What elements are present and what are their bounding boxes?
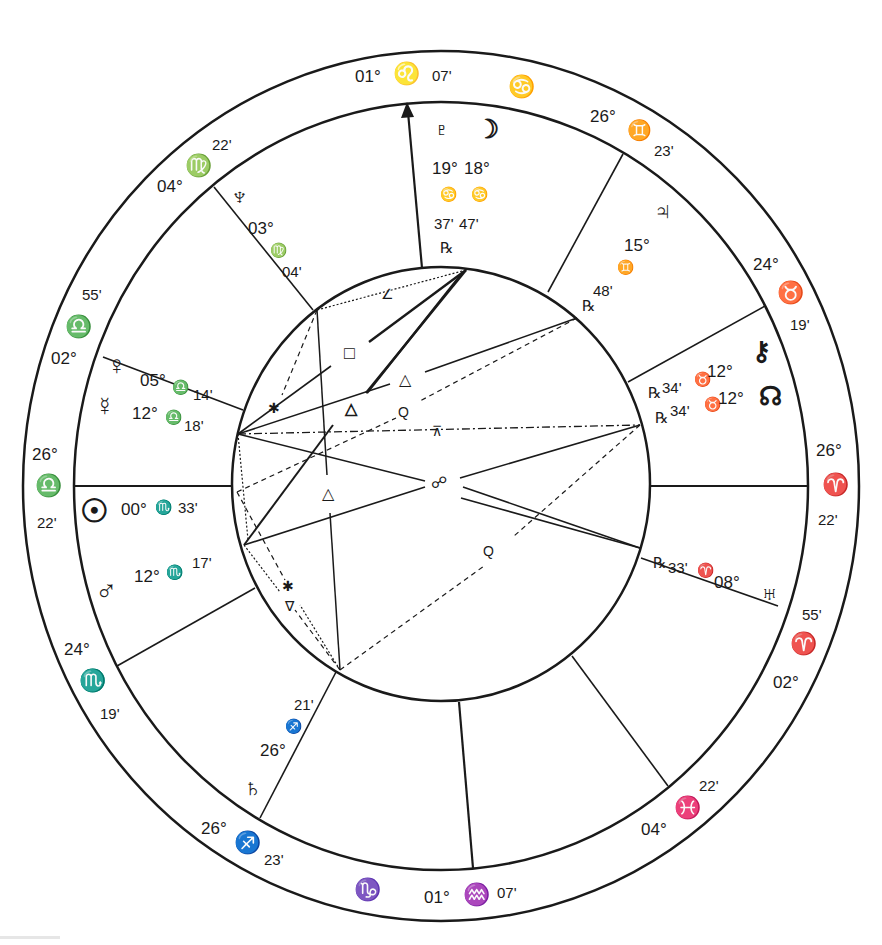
h3r-minutes: 22'	[699, 778, 719, 793]
h2r-minutes: 55'	[802, 607, 822, 622]
moon-sign: ♋	[471, 187, 488, 201]
aspect-opposition-icon: ☍	[431, 475, 447, 491]
neptune-sign: ♍	[270, 243, 287, 257]
h11-minutes: 23'	[654, 143, 674, 158]
h9-sign-virgo: ♍	[185, 155, 212, 177]
node-retrograde: ℞	[655, 410, 668, 425]
h5-minutes: 23'	[264, 852, 284, 867]
h11-degree: 26°	[590, 108, 616, 125]
mars-degree: 12°	[134, 568, 160, 585]
h11-sign-gemini: ♊	[627, 120, 652, 140]
venus-icon: ♀	[107, 352, 127, 378]
pluto-retrograde: ℞	[440, 240, 453, 255]
h12-minutes: 19'	[790, 317, 810, 332]
chiron-degree: 12°	[707, 363, 733, 380]
jupiter-minutes: 48'	[593, 283, 613, 298]
sun-degree: 00°	[121, 501, 147, 518]
h5-sign-sagittarius: ♐	[234, 832, 261, 854]
asc-minutes: 22'	[37, 515, 57, 530]
jupiter-retrograde: ℞	[582, 298, 595, 313]
moon-degree: 18°	[464, 160, 490, 177]
node-degree: 12°	[718, 390, 744, 407]
pluto-degree: 19°	[432, 160, 458, 177]
mars-icon: ♂	[95, 575, 118, 605]
uranus-minutes: 33'	[668, 560, 688, 575]
aspect-semisquare-icon: ∠	[381, 287, 394, 301]
moon-minutes: 47'	[459, 216, 479, 231]
h5-degree: 26°	[201, 820, 227, 837]
cusp-6	[117, 588, 255, 666]
aspect-sesquiquadrate-icon: Q	[398, 405, 409, 419]
mc-degree: 01°	[355, 68, 381, 85]
aspect-sextile-lower-icon: ✱	[282, 579, 294, 593]
h2r-degree: 02°	[773, 674, 799, 691]
sun-icon: ☉	[80, 495, 109, 527]
mercury-sign: ♎	[165, 410, 182, 424]
neptune-degree: 03°	[248, 220, 274, 237]
chiron-minutes: 34'	[662, 380, 682, 395]
mercury-minutes: 18'	[184, 418, 204, 433]
h6-sign-scorpio: ♏	[79, 670, 106, 692]
mars-minutes: 17'	[192, 555, 212, 570]
moon-icon: ☽	[476, 116, 499, 142]
saturn-degree: 26°	[260, 742, 286, 759]
dsc-minutes: 22'	[818, 512, 838, 527]
mercury-icon: ☿	[95, 393, 115, 419]
ic-line	[459, 702, 473, 868]
saturn-minutes: 21'	[294, 697, 314, 712]
h9-degree: 04°	[157, 178, 183, 195]
footer-artifact	[0, 936, 60, 939]
cusp-3r	[572, 656, 668, 786]
h9-minutes: 22'	[212, 137, 232, 152]
h12-degree: 24°	[753, 256, 779, 273]
h3r-sign-pisces: ♓	[674, 797, 701, 819]
aspect-sesquiquadrate-lower-icon: Q	[483, 544, 494, 558]
aspect-square-icon: □	[344, 344, 355, 362]
jupiter-degree: 15°	[624, 237, 650, 254]
h8-degree: 02°	[51, 350, 77, 367]
asc-sign-libra: ♎	[35, 475, 62, 497]
venus-minutes: 14'	[193, 387, 213, 402]
sun-sign: ♏	[155, 500, 172, 514]
saturn-icon: ♄	[243, 775, 263, 801]
neptune-minutes: 04'	[282, 264, 302, 279]
cusp-11	[548, 154, 623, 292]
pluto-icon: ♇	[432, 116, 452, 142]
venus-degree: 05°	[140, 372, 166, 389]
uranus-sign: ♈	[697, 563, 714, 577]
mc-sign-leo: ♌	[393, 63, 420, 85]
intercepted-capricorn: ♑	[354, 879, 381, 901]
asc-degree: 26°	[32, 446, 58, 463]
neptune-icon: ♆	[230, 183, 250, 209]
mars-sign: ♏	[166, 565, 183, 579]
venus-sign: ♎	[172, 380, 189, 394]
chiron-retrograde: ℞	[648, 385, 661, 400]
mercury-degree: 12°	[132, 405, 158, 422]
jupiter-icon: ♃	[653, 198, 673, 224]
h6-degree: 24°	[64, 641, 90, 658]
mc-arrow	[401, 102, 422, 268]
uranus-icon: ♅	[760, 580, 780, 606]
h8-sign-libra: ♎	[65, 316, 92, 338]
node-icon: ☊	[759, 383, 782, 409]
aspect-trine-lower-icon: △	[322, 486, 334, 502]
aspect-lines	[237, 270, 640, 670]
aspect-sextile-icon: ✱	[268, 401, 280, 415]
saturn-sign: ♐	[285, 719, 302, 733]
h12-sign-taurus: ♉	[777, 282, 804, 304]
h2r-sign-aries: ♈	[790, 633, 817, 655]
intercepted-cancer: ♋	[508, 76, 535, 98]
uranus-retrograde: ℞	[653, 555, 666, 570]
uranus-degree: 08°	[714, 574, 740, 591]
sun-minutes: 33'	[178, 500, 198, 515]
aspect-trine-bold-icon: △	[345, 401, 357, 417]
jupiter-sign: ♊	[617, 260, 634, 274]
h8-minutes: 55'	[82, 287, 102, 302]
mc-minutes: 07'	[432, 68, 452, 83]
ic-degree: 01°	[424, 889, 450, 906]
aspect-quincunx-icon: ⊼	[432, 424, 442, 438]
cusp-9	[214, 187, 313, 310]
h3r-degree: 04°	[641, 821, 667, 838]
pluto-sign: ♋	[440, 187, 457, 201]
aspect-trine-icon: △	[399, 372, 411, 388]
